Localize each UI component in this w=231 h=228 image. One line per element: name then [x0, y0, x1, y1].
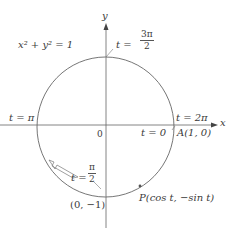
t-3pi-2-fraction: 3π 2	[140, 30, 154, 51]
t-pi-2-denominator: 2	[88, 174, 96, 184]
leader-line-3pi-2	[106, 49, 113, 57]
t-3pi-2-prefix: t =	[116, 40, 132, 50]
unit-circle-diagram: x² + y² = 1 y x 0 t = 3π 2 t = π t = 2π …	[0, 0, 231, 228]
origin-label: 0	[97, 130, 103, 139]
x-axis-arrow-icon	[211, 123, 218, 128]
equation-label: x² + y² = 1	[18, 40, 73, 50]
point-a-label: A(1, 0)	[177, 128, 211, 138]
point-bottom-label: (0, −1)	[70, 200, 105, 210]
t-3pi-2-numerator: 3π	[140, 30, 154, 41]
y-axis-arrow-icon	[104, 23, 109, 30]
t-pi-2-numerator: π	[88, 163, 96, 174]
t-pi-label: t = π	[9, 113, 34, 123]
t-3pi-2-denominator: 2	[140, 41, 154, 51]
x-axis-label: x	[220, 118, 226, 128]
t-pi-2-fraction: π 2	[88, 163, 96, 184]
t-pi-2-prefix: t =	[71, 173, 87, 183]
t-2pi-label: t = 2π	[176, 113, 208, 123]
point-p-marker	[139, 185, 142, 188]
t-0-label: t = 0	[141, 128, 166, 138]
y-axis-label: y	[102, 11, 108, 21]
point-p-label: P(cos t, −sin t)	[139, 193, 214, 203]
leader-line-t0	[172, 126, 175, 130]
